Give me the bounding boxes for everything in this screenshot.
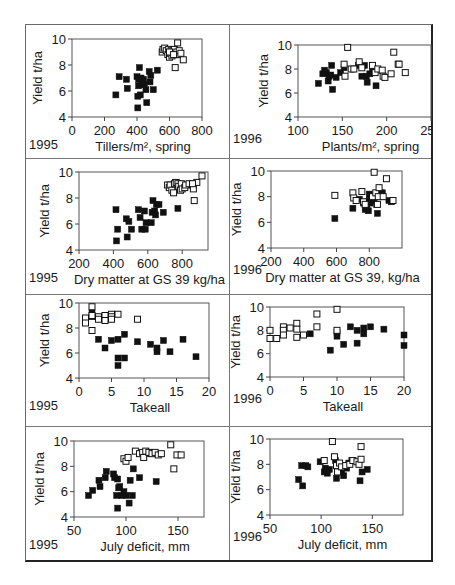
data-point-filled xyxy=(381,326,387,332)
y-axis-label: Yield t/ha xyxy=(256,53,271,107)
y-tick-label: 8 xyxy=(285,62,292,77)
data-point-filled xyxy=(401,332,407,338)
data-point-open xyxy=(351,66,357,72)
x-tick-label: 15 xyxy=(169,384,183,399)
data-point-open xyxy=(383,176,389,182)
data-point-filled xyxy=(153,479,159,485)
y-tick-label: 6 xyxy=(257,346,264,361)
data-point-filled xyxy=(329,62,335,68)
data-point-filled xyxy=(137,215,143,221)
data-point-filled xyxy=(144,100,150,106)
data-point-open xyxy=(294,320,300,326)
data-point-filled xyxy=(102,345,108,351)
data-point-filled xyxy=(350,205,356,211)
x-tick-label: 50 xyxy=(67,523,81,538)
data-point-open xyxy=(314,311,320,317)
data-point-filled xyxy=(123,76,129,82)
y-tick-label: 4 xyxy=(66,371,73,386)
y-axis-label: Yield t/ha xyxy=(30,50,45,104)
x-tick-label: 400 xyxy=(293,254,315,269)
data-point-open xyxy=(171,466,177,472)
data-point-open xyxy=(115,311,121,317)
data-point-filled xyxy=(153,212,159,218)
data-point-open xyxy=(135,316,141,322)
data-point-filled xyxy=(109,338,115,344)
y-tick-label: 8 xyxy=(258,189,265,204)
data-point-filled xyxy=(113,92,119,98)
data-point-filled xyxy=(364,79,370,85)
x-tick-label: 150 xyxy=(331,123,353,138)
data-point-filled xyxy=(103,468,109,474)
data-point-open xyxy=(171,52,177,58)
scatter-drymatter-1996: 46810200400600800Yield t/haDry matter at… xyxy=(230,159,432,294)
data-point-open xyxy=(267,336,273,342)
year-label: 1995 xyxy=(29,270,58,285)
data-point-open xyxy=(382,74,388,80)
data-point-filled xyxy=(128,226,134,232)
data-point-open xyxy=(158,451,164,457)
y-axis-label: Yield t/ha xyxy=(230,182,244,236)
data-point-filled xyxy=(341,473,347,479)
year-label: 1996 xyxy=(233,529,262,544)
data-point-filled xyxy=(374,210,380,216)
data-point-open xyxy=(178,50,184,56)
data-point-open xyxy=(402,70,408,76)
data-point-filled xyxy=(368,324,374,330)
data-point-filled xyxy=(364,466,370,472)
x-tick-label: 100 xyxy=(115,523,137,538)
x-axis-label: Dry matter at GS 39, kg/ha xyxy=(265,270,420,285)
data-point-filled xyxy=(296,477,302,483)
x-axis-label: Tillers/m², spring xyxy=(95,139,191,154)
y-tick-label: 10 xyxy=(250,300,264,315)
data-point-open xyxy=(359,189,365,195)
data-point-filled xyxy=(129,492,135,498)
data-point-filled xyxy=(326,466,332,472)
data-point-filled xyxy=(135,105,141,111)
data-point-filled xyxy=(175,205,181,211)
x-axis-label: Takeall xyxy=(323,399,364,414)
x-tick-label: 10 xyxy=(137,384,151,399)
data-point-filled xyxy=(330,86,336,92)
x-tick-label: 50 xyxy=(263,521,277,536)
data-point-open xyxy=(359,65,365,71)
y-tick-label: 8 xyxy=(59,58,66,73)
y-tick-label: 10 xyxy=(250,432,264,447)
data-point-open xyxy=(102,318,108,324)
data-point-open xyxy=(321,458,327,464)
data-point-open xyxy=(334,306,340,312)
data-point-filled xyxy=(148,220,154,226)
data-point-open xyxy=(180,57,186,63)
scatter-plants-1996: 46810100150200250Yield t/haPlants/m², sp… xyxy=(230,25,432,158)
x-axis-label: July deficit, mm xyxy=(298,537,388,552)
year-label: 1996 xyxy=(233,262,262,277)
plot-area xyxy=(270,307,404,377)
data-point-filled xyxy=(102,475,108,481)
x-tick-label: 0 xyxy=(266,383,273,398)
data-point-filled xyxy=(122,331,128,337)
data-point-filled xyxy=(96,477,102,483)
scatter-drymatter-1995: 46810200400600800Yield t/haDry matter at… xyxy=(26,159,229,294)
x-tick-label: 20 xyxy=(202,384,216,399)
y-axis-label: Yield t/ha xyxy=(32,451,47,505)
data-point-filled xyxy=(161,338,167,344)
data-point-filled xyxy=(97,484,103,490)
y-tick-label: 10 xyxy=(52,32,66,47)
data-point-filled xyxy=(347,324,353,330)
scatter-takeall-1996: 4681005101520Yield t/haTakeall1996 xyxy=(230,295,432,426)
x-tick-label: 600 xyxy=(137,256,159,271)
y-axis-label: Yield t/ha xyxy=(37,313,52,367)
x-tick-label: 200 xyxy=(68,256,90,271)
data-point-filled xyxy=(90,487,96,493)
plot-area xyxy=(271,171,402,248)
y-tick-label: 10 xyxy=(278,38,292,53)
data-point-filled xyxy=(123,492,129,498)
x-tick-label: 800 xyxy=(191,123,213,138)
data-point-filled xyxy=(354,340,360,346)
data-point-open xyxy=(109,316,115,322)
x-tick-label: 15 xyxy=(363,383,377,398)
y-tick-label: 10 xyxy=(251,164,265,179)
scatter-julydeficit-1995: 4681050100150Yield t/haJuly deficit, mm1… xyxy=(26,427,229,561)
data-point-open xyxy=(199,173,205,179)
data-point-filled xyxy=(141,82,147,88)
y-tick-label: 8 xyxy=(66,321,73,336)
